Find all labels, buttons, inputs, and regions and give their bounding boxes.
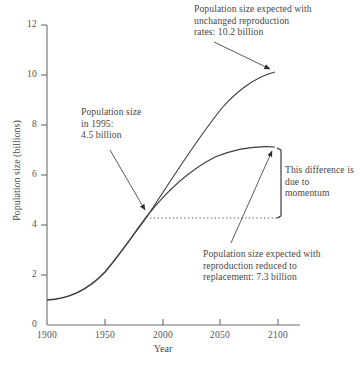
leader-line-unchanged [214,42,270,69]
y-tick-label-2: 2 [15,269,37,279]
annotation-1995-line3: 4.5 billion [81,129,141,141]
annotation-replacement-line1: Population size expected with [203,248,321,260]
y-axis-ticks [41,25,47,275]
historical-population-curve [47,215,148,300]
annotation-replacement-line3: replacement: 7.3 billion [203,271,321,283]
x-axis-ticks [105,319,278,325]
annotation-unchanged-line2: unchanged reproduction [194,15,312,27]
annotation-unchanged-line1: Population size expected with [194,3,312,15]
annotation-momentum-line2: due to [285,176,354,188]
leader-line-1995 [110,150,145,210]
annotation-replacement-rates: Population size expected with reproducti… [203,248,321,283]
annotation-momentum: This difference is due to momentum [285,164,354,199]
x-tick-label-2100: 2100 [258,330,298,340]
annotation-unchanged-rates: Population size expected with unchanged … [194,3,312,38]
annotation-replacement-line2: reproduction reduced to [203,260,321,272]
x-tick-label-1900: 1900 [27,330,67,340]
annotation-1995-line2: in 1995: [81,118,141,130]
y-tick-label-0: 0 [15,319,37,329]
x-axis-title: Year [143,343,183,354]
annotation-momentum-line1: This difference is [285,164,354,176]
momentum-bracket [277,148,281,218]
x-tick-label-2050: 2050 [200,330,240,340]
leader-line-replacement [231,151,272,243]
replacement-rates-curve [148,147,275,215]
x-tick-label-1950: 1950 [85,330,125,340]
x-tick-label-2000: 2000 [143,330,183,340]
annotation-1995-line1: Population size [81,106,141,118]
annotation-momentum-line3: momentum [285,187,354,199]
y-tick-label-12: 12 [15,19,37,29]
population-projection-chart: 12 10 8 6 4 2 0 1900 1950 2000 2050 2100… [0,0,363,370]
y-tick-label-10: 10 [15,69,37,79]
annotation-population-1995: Population size in 1995: 4.5 billion [81,106,141,141]
annotation-unchanged-line3: rates: 10.2 billion [194,26,312,38]
y-axis-title: Population size (billions) [11,111,22,231]
